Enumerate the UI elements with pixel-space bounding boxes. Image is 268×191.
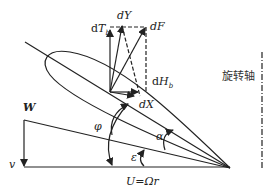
label-dH: dHb [152,76,173,90]
label-W: W [23,102,35,113]
label-alpha: α [156,131,163,142]
blade-force-diagram: dTb dY dF dHb dX W v φ α ε U=Ωr 旋转轴 [0,0,268,191]
label-v: v [9,159,15,170]
label-dX: dX [139,99,154,110]
relative-velocity-W [24,120,230,168]
label-epsilon: ε [131,152,137,163]
label-U: U=Ωr [126,176,159,187]
label-dF: dF [150,21,165,32]
label-dT: dTb [91,23,110,37]
epsilon-arc [141,150,145,166]
label-dY: dY [117,10,131,21]
label-rotation-axis: 旋转轴 [222,67,255,83]
label-phi: φ [94,121,102,132]
